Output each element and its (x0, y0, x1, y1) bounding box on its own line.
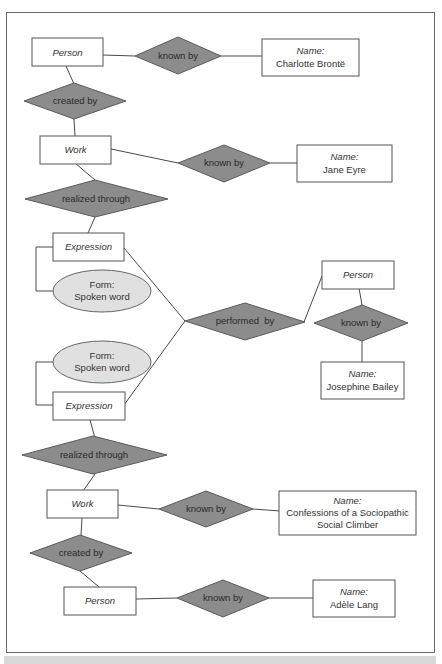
relationship-label: performed by (216, 315, 275, 326)
entity-expression-1[interactable]: Expression (53, 233, 124, 261)
name-value-continued: Social Climber (317, 519, 378, 530)
name-value: Adèle Lang (330, 599, 378, 610)
attribute-value: Spoken word (74, 291, 129, 302)
relationship-label: created by (59, 547, 104, 558)
name-value: Jane Eyre (323, 164, 366, 175)
relationship-label: created by (53, 95, 98, 106)
name-heading: Name: (297, 45, 325, 56)
relationship-realized-through-2[interactable]: realized through (22, 436, 167, 474)
relationship-label: known by (186, 503, 226, 514)
entity-label: Work (64, 144, 87, 155)
entity-person-3[interactable]: Person (64, 587, 136, 615)
name-heading: Name: (349, 368, 377, 379)
edge-created1-work1 (74, 119, 75, 136)
edge-person3-known5 (136, 598, 177, 599)
entity-person-1[interactable]: Person (32, 38, 103, 66)
relationship-label: realized through (62, 193, 130, 204)
edge-work1-realized1 (75, 163, 95, 180)
relationship-label: known by (158, 50, 198, 61)
edge-work2-created2 (81, 518, 82, 535)
edge-performed-person2 (304, 276, 322, 322)
entity-label: Person (52, 47, 82, 58)
entity-label: Work (71, 498, 94, 509)
relationship-label: realized through (60, 449, 128, 460)
name-value: Confessions of a Sociopathic (286, 507, 409, 518)
edge-realized2-work2 (83, 474, 95, 491)
attribute-form-spoken-word-2[interactable]: Form: Spoken word (53, 341, 151, 383)
edge-expr1-form1 (36, 247, 53, 291)
name-value: Charlotte Brontë (276, 58, 345, 69)
relationship-known-by-4[interactable]: known by (159, 491, 253, 527)
relationship-known-by-2[interactable]: known by (178, 145, 270, 182)
attribute-heading: Form: (90, 279, 115, 290)
attribute-form-spoken-word-1[interactable]: Form: Spoken word (53, 270, 151, 312)
name-heading: Name: (334, 495, 362, 506)
entity-name-adele-lang[interactable]: Name: Adèle Lang (313, 580, 395, 617)
entity-person-2[interactable]: Person (322, 261, 394, 289)
attribute-heading: Form: (90, 350, 115, 361)
edge-work2-known4 (118, 505, 159, 509)
entity-name-confessions[interactable]: Name: Confessions of a Sociopathic Socia… (279, 491, 416, 535)
entity-work-1[interactable]: Work (40, 136, 111, 164)
relationship-created-by-2[interactable]: created by (30, 535, 132, 571)
relationship-performed-by[interactable]: performed by (185, 303, 305, 340)
relationship-known-by-1[interactable]: known by (135, 37, 221, 74)
edge-work1-known2 (111, 149, 178, 163)
relationship-known-by-3[interactable]: known by (314, 305, 408, 341)
edge-person1-created1 (66, 66, 74, 84)
edge-expr2-realized2 (90, 420, 95, 438)
attribute-value: Spoken word (74, 362, 129, 373)
entity-work-2[interactable]: Work (47, 490, 118, 518)
edge-created2-person3 (80, 571, 99, 587)
name-heading: Name: (340, 586, 368, 597)
entity-label: Expression (65, 241, 112, 252)
edge-person2-known3 (359, 288, 362, 305)
entity-label: Expression (66, 400, 113, 411)
entity-expression-2[interactable]: Expression (53, 392, 125, 420)
entity-relationship-diagram: Person known by Name: Charlotte Brontë c… (0, 0, 442, 664)
entity-name-charlotte-bronte[interactable]: Name: Charlotte Brontë (262, 39, 359, 76)
relationship-known-by-5[interactable]: known by (177, 580, 269, 617)
entity-name-josephine-bailey[interactable]: Name: Josephine Bailey (321, 362, 404, 399)
edge-known4-name4 (253, 509, 280, 511)
relationship-label: known by (204, 157, 244, 168)
entity-label: Person (85, 595, 115, 606)
entity-name-jane-eyre[interactable]: Name: Jane Eyre (297, 145, 392, 182)
relationship-realized-through-1[interactable]: realized through (25, 180, 168, 217)
relationship-label: known by (341, 317, 381, 328)
edge-form2-expr2 (36, 362, 53, 405)
entity-label: Person (343, 269, 373, 280)
relationship-label: known by (203, 592, 243, 603)
name-heading: Name: (331, 151, 359, 162)
edge-realized1-expr1 (88, 217, 95, 233)
name-value: Josephine Bailey (327, 381, 399, 392)
relationship-created-by-1[interactable]: created by (24, 83, 126, 119)
edge-person1-known1 (103, 55, 135, 56)
